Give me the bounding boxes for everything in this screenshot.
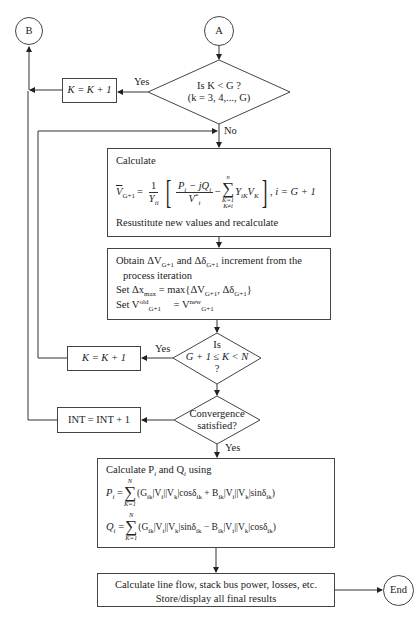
obtain-line3-sub3: G+1	[234, 290, 247, 298]
sigma-icon: ∑	[222, 181, 234, 197]
q-summation: N ∑ K=1	[125, 512, 137, 541]
eq-frac1-den-sub: ii	[155, 199, 159, 207]
obtain-line4-sub2: G+1	[201, 305, 214, 313]
sigma-icon: ∑	[125, 519, 137, 535]
voltage-update-equation: VG+1 = 1 Yii [ Pi − jQi V*i − n ∑ K=1 K≠…	[116, 170, 322, 214]
p-summation: N ∑ K=1	[124, 478, 136, 507]
decision-k-range-line3: ?	[172, 363, 262, 375]
q-lhs: Q	[106, 521, 114, 532]
eq-minus: −	[215, 186, 221, 198]
calculate-heading: Calculate	[116, 155, 322, 167]
decision-k-range: Is G + 1 ≤ K < N ?	[172, 339, 262, 375]
calculate-footer: Resustitute new values and recalculate	[116, 217, 322, 229]
q-expression: (Gik|Vi||Vk|sinδik − Bik|Vi||Vk|cosδik)	[138, 522, 276, 533]
obtain-line1-sub2: G+1	[206, 261, 219, 269]
decision-k-range-yes-label: Yes	[155, 343, 170, 354]
decision-k-range-line2: G + 1 ≤ K < N	[172, 351, 262, 363]
eq-condition: , i = G + 1	[270, 186, 316, 198]
process-calculate-pq: Calculate Pi and Qi using Pi = N ∑ K=1 (…	[97, 458, 335, 548]
process-int-increment-label: INT = INT + 1	[68, 414, 130, 426]
eq-frac2-den-sub: i	[198, 199, 200, 207]
obtain-line3: Set Δxmax = max{ΔVG+1, ΔδG+1}	[116, 283, 322, 298]
obtain-line3-b: = max{ΔV	[156, 284, 205, 295]
p-equation: Pi = N ∑ K=1 (Gik|Vi||Vk|cosδik + Bik|Vi…	[106, 476, 326, 510]
q-sum-lower: K=1	[125, 535, 137, 542]
eq-term-v-sub: K	[254, 192, 259, 200]
obtain-line4-b: = V	[171, 299, 190, 310]
decision-k-less-g-line2: (k = 3, 4,..., G)	[169, 92, 269, 104]
eq-frac1-num: 1	[149, 180, 158, 193]
eq-left-bracket: [	[165, 175, 171, 209]
eq-summation: n ∑ K=1 K≠i	[222, 174, 234, 210]
eq-fraction-2: Pi − jQi V*i	[176, 180, 213, 204]
process-final-results: Calculate line flow, stack bus power, lo…	[97, 573, 335, 607]
pq-heading-mid: and Q	[156, 464, 184, 475]
process-calculate-voltage: Calculate VG+1 = 1 Yii [ Pi − jQi V*i − …	[107, 148, 331, 237]
q-lhs-sub: i	[114, 527, 116, 535]
decision-k-less-g-line1: Is K < G ?	[169, 80, 269, 92]
pq-heading: Calculate Pi and Qi using	[106, 464, 326, 476]
eq-equals: =	[137, 186, 143, 198]
obtain-line4-a: Set V	[116, 299, 139, 310]
decision-k-less-g-no-label: No	[224, 125, 237, 136]
obtain-line3-a: Set Δx	[116, 284, 144, 295]
obtain-line3-d: }	[247, 284, 252, 295]
decision-k-less-g: Is K < G ? (k = 3, 4,..., G)	[169, 80, 269, 104]
obtain-line1: Obtain ΔVG+1 and ΔδG+1 increment from th…	[116, 254, 322, 269]
p-lhs-sub: i	[112, 493, 114, 501]
p-sum-lower: K=1	[124, 501, 136, 508]
p-expression: (Gik|Vi||Vk|cosδik + Bik|Vi||Vk|sinδik)	[137, 488, 275, 499]
process-obtain-increments: Obtain ΔVG+1 and ΔδG+1 increment from th…	[107, 248, 331, 320]
obtain-line4: Set VoldG+1 = VnewG+1	[116, 298, 322, 313]
decision-k-less-g-yes-label: Yes	[134, 76, 149, 87]
obtain-line3-c: , Δδ	[217, 284, 234, 295]
obtain-line1-b: and Δδ	[174, 255, 206, 266]
eq-sum-lower2: K≠i	[223, 203, 233, 210]
connector-a-label: A	[215, 25, 223, 37]
process-k-increment-1: K = K + 1	[62, 78, 117, 103]
obtain-line4-sup2: new	[189, 298, 201, 306]
eq-term-y-sub: iK	[241, 192, 248, 200]
eq-fraction-1: 1 Yii	[147, 180, 161, 204]
decision-convergence-yes-label: Yes	[225, 442, 240, 453]
decision-convergence-line1: Convergence	[174, 408, 260, 420]
pq-heading-end: using	[186, 464, 211, 475]
process-int-increment: INT = INT + 1	[57, 407, 141, 433]
process-k-increment-2-label: K = K + 1	[82, 352, 126, 364]
obtain-line4-sub: G+1	[148, 305, 161, 313]
obtain-line1-sub1: G+1	[162, 261, 175, 269]
eq-frac2-num-mid: − jQ	[186, 180, 209, 191]
process-k-increment-1-label: K = K + 1	[68, 84, 112, 96]
pq-heading-a: Calculate P	[106, 464, 154, 475]
decision-convergence: Convergence satisfied?	[174, 408, 260, 432]
final-line2: Store/display all final results	[98, 592, 334, 606]
decision-k-range-line1: Is	[172, 339, 262, 351]
eq-frac2-num-sub2: i	[209, 186, 211, 194]
final-line1: Calculate line flow, stack bus power, lo…	[98, 578, 334, 592]
sigma-icon: ∑	[124, 485, 136, 501]
connector-b: B	[15, 17, 43, 45]
obtain-line2: process iteration	[116, 269, 322, 284]
connector-end-label: End	[390, 584, 407, 596]
eq-right-bracket: ]	[262, 175, 268, 209]
connector-b-label: B	[25, 25, 32, 37]
obtain-line1-a: Obtain ΔV	[116, 255, 162, 266]
connector-end: End	[383, 575, 414, 606]
eq-lhs-sub: G+1	[122, 192, 135, 200]
obtain-line1-c: increment from the	[219, 255, 302, 266]
connector-a: A	[204, 16, 234, 46]
decision-convergence-line2: satisfied?	[174, 420, 260, 432]
process-k-increment-2: K = K + 1	[67, 346, 141, 371]
q-equation: Qi = N ∑ K=1 (Gik|Vi||Vk|sinδik − Bik|Vi…	[106, 510, 326, 544]
